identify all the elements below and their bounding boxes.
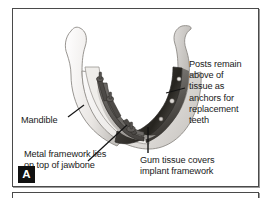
annotation-gum-tissue: Gum tissue covers implant framework [140,155,252,177]
annotation-posts: Posts remain above of tissue as anchors … [189,59,265,126]
annotation-mandible: Mandible [21,115,81,126]
implant-post-3 [159,117,163,121]
illustration-stage: Posts remain above of tissue as anchors … [13,9,260,188]
figure-panel-a: Posts remain above of tissue as anchors … [12,8,259,187]
figure-panel-b [12,192,259,198]
annotation-metal-framework: Metal framework lies on top of jawbone [24,149,138,171]
framework-post-2 [109,92,112,99]
framework-post-3 [130,122,133,129]
implant-post-2 [170,99,175,104]
figure-screenshot: Posts remain above of tissue as anchors … [0,0,268,198]
panel-letter-badge: A [18,166,35,183]
framework-post-1 [99,72,102,79]
implant-post-1 [177,77,181,81]
